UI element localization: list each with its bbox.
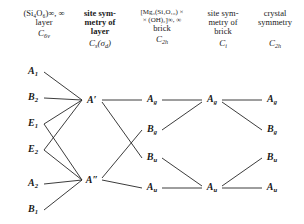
term-symbol: Bu: [265, 152, 278, 163]
term-symbol: A1: [27, 66, 40, 77]
correlation-line: [222, 102, 262, 130]
correlation-line: [44, 100, 82, 124]
term-symbol: Bg: [146, 124, 159, 135]
term-symbol: A″: [84, 175, 100, 185]
term-symbol: A2: [27, 178, 40, 189]
term-symbol: Ag: [266, 94, 279, 105]
term-symbol: Bg: [266, 124, 279, 135]
term-symbol: B2: [27, 92, 40, 103]
point-group-symbol: C2h: [124, 35, 200, 45]
correlation-diagram-figure: (Si₄O₆)∞, ∞ layer C6v site sym- metry of…: [0, 0, 304, 224]
term-symbol: E1: [27, 118, 40, 129]
correlation-line: [44, 180, 82, 184]
correlation-line: [44, 180, 82, 210]
term-symbol: A′: [86, 95, 99, 105]
term-symbol: Ag: [146, 94, 159, 105]
header-line: symmetry: [246, 18, 304, 27]
correlation-line: [162, 158, 202, 186]
correlation-line: [162, 102, 202, 130]
header-column-brick-formula: [Mg₃(Si₄O₁₀) × × (OH)₂]∞, ∞ brick C2h: [124, 9, 200, 46]
header-column-crystal-symmetry: crystal symmetry C2h: [246, 9, 304, 50]
point-group-symbol: C2h: [246, 39, 304, 49]
correlation-line: [102, 130, 142, 178]
term-symbol: Ag: [206, 94, 219, 105]
correlation-line: [44, 150, 82, 180]
term-symbol: E2: [27, 144, 40, 155]
correlation-links: [0, 58, 304, 224]
term-symbol: B1: [27, 204, 40, 215]
correlation-line: [44, 124, 82, 180]
term-symbol: Au: [145, 182, 158, 193]
correlation-line: [44, 98, 82, 100]
term-symbol: Bu: [145, 152, 158, 163]
correlation-stage: A1B2E1E2A2B1A′A″AgBgBuAuAgAuAgBgBuAu: [0, 58, 304, 224]
correlation-line: [102, 180, 142, 188]
correlation-line: [102, 102, 142, 158]
header-line: brick: [124, 24, 200, 33]
correlation-line: [44, 100, 82, 150]
correlation-line: [222, 158, 262, 186]
correlation-line: [44, 72, 82, 100]
term-symbol: Au: [265, 182, 278, 193]
term-symbol: Au: [205, 182, 218, 193]
figure-header: (Si₄O₆)∞, ∞ layer C6v site sym- metry of…: [0, 0, 304, 58]
